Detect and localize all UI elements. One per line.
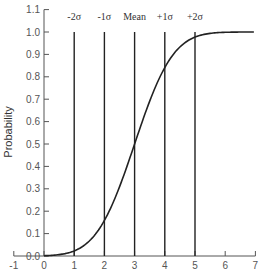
y-axis: 0.00.10.20.30.40.50.60.70.80.91.01.1 [26,4,49,261]
y-tick-label: 0.7 [26,94,40,105]
sigma-label: +1σ [157,11,174,22]
x-tick-label: 2 [102,260,108,271]
sigma-marker-lines: -2σ-1σMean+1σ+2σ [67,11,203,256]
y-tick-label: 0.6 [26,116,40,127]
x-tick-label: 5 [192,260,198,271]
y-tick-label: 0.4 [26,161,40,172]
x-tick-label: 7 [253,260,259,271]
x-tick-label: 0 [41,260,47,271]
x-tick-label: 3 [132,260,138,271]
sigma-label: +2σ [187,11,204,22]
x-tick-label: 1 [71,260,77,271]
cdf-chart: 0.00.10.20.30.40.50.60.70.80.91.01.1 -10… [0,0,273,280]
sigma-label: -2σ [67,11,81,22]
sigma-label: -1σ [98,11,112,22]
y-axis-label: Probability [2,106,14,158]
y-tick-label: 0.1 [26,228,40,239]
y-tick-label: 0.5 [26,139,40,150]
y-tick-label: 0.8 [26,71,40,82]
y-tick-label: 0.3 [26,183,40,194]
sigma-label: Mean [123,11,146,22]
x-tick-label: 6 [222,260,228,271]
y-tick-label: 0.9 [26,49,40,60]
y-tick-label: 0.2 [26,206,40,217]
cdf-curve [44,32,254,256]
x-tick-label: -1 [9,260,18,271]
y-tick-label: 1.1 [26,4,40,15]
x-tick-label: 4 [162,260,168,271]
y-tick-label: 1.0 [26,27,40,38]
